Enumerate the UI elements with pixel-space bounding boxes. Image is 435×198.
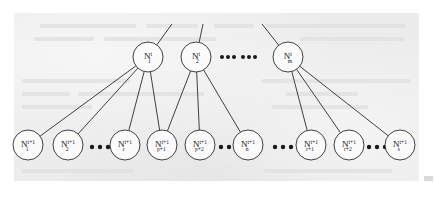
node-circle — [147, 130, 177, 160]
ellipsis-dot — [226, 55, 230, 59]
stub-edge-pm — [262, 24, 279, 45]
node-circle — [110, 130, 140, 160]
ellipsis-dot — [253, 55, 257, 59]
node-circle — [296, 130, 326, 160]
ellipsis-dot — [220, 55, 224, 59]
child-node-cp1: Ni+1p+1 — [147, 130, 177, 160]
child-node-c2: Ni+12 — [53, 130, 83, 160]
node-circle — [385, 130, 415, 160]
figure-page: Ni1Ni2Nim Ni+11Ni+12Ni+1rNi+1p+1Ni+1p+2N… — [0, 0, 435, 198]
edge-p2-cp2 — [197, 72, 200, 130]
child-node-cr2: Ni+1r+2 — [334, 130, 364, 160]
child-node-cn: Ni+1n — [233, 130, 263, 160]
ellipsis-dot — [241, 55, 245, 59]
child-node-cr1: Ni+1r+1 — [296, 130, 326, 160]
edge-pm-cs — [300, 66, 388, 135]
stub-edge-group — [157, 24, 279, 45]
node-diagram: Ni1Ni2Nim Ni+11Ni+12Ni+1rNi+1p+1Ni+1p+2N… — [0, 0, 435, 198]
ellipsis-dot — [227, 145, 231, 149]
ellipsis-dot — [273, 145, 277, 149]
child-node-c1: Ni+11 — [13, 130, 43, 160]
parent-node-p2: Ni2 — [181, 42, 211, 72]
edge-pm-cr2 — [297, 69, 341, 132]
child-node-cs: Ni+1s — [385, 130, 415, 160]
stub-edge-p2 — [199, 24, 203, 42]
edge-p1-c2 — [78, 68, 138, 134]
node-circle — [185, 130, 215, 160]
stub-edge-p1 — [157, 24, 172, 45]
ellipsis-dot — [219, 145, 223, 149]
parent-node-pm: Nim — [273, 42, 303, 72]
ellipsis-dot — [106, 145, 110, 149]
ellipsis-dot — [232, 55, 236, 59]
edge-group — [40, 66, 388, 136]
edge-p2-cp1 — [167, 71, 190, 131]
ellipsis-dot — [90, 145, 94, 149]
ellipsis-dot — [289, 145, 293, 149]
child-node-cr: Ni+1r — [110, 130, 140, 160]
scan-edge-artifact — [424, 176, 433, 181]
node-circle — [334, 130, 364, 160]
edge-p1-cp1 — [150, 72, 159, 130]
node-circle — [53, 130, 83, 160]
edge-p2-cn — [204, 70, 241, 132]
ellipsis-dot — [375, 145, 379, 149]
child-node-cp2: Ni+1p+2 — [185, 130, 215, 160]
edge-p1-c1 — [40, 66, 136, 136]
parent-node-p1: Ni1 — [133, 42, 163, 72]
ellipsis-dot — [98, 145, 102, 149]
ellipsis-dot — [367, 145, 371, 149]
edge-pm-cr1 — [292, 72, 307, 131]
node-circle — [13, 130, 43, 160]
node-circle — [233, 130, 263, 160]
edge-p1-cr — [129, 72, 144, 131]
ellipsis-dot — [247, 55, 251, 59]
ellipsis-dot — [281, 145, 285, 149]
child-node-group: Ni+11Ni+12Ni+1rNi+1p+1Ni+1p+2Ni+1nNi+1r+… — [13, 130, 415, 160]
parent-node-group: Ni1Ni2Nim — [133, 42, 303, 72]
